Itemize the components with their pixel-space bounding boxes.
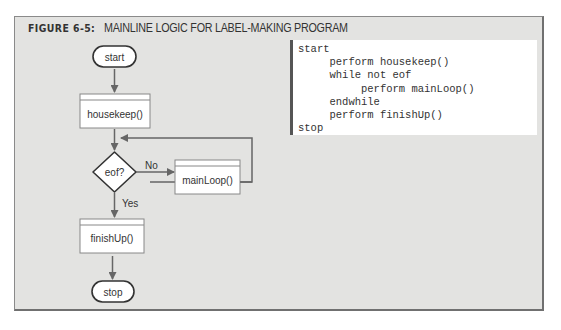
- start-terminator: start: [93, 46, 136, 67]
- code-line: perform housekeep(): [298, 56, 537, 69]
- code-line: while not eof: [298, 69, 537, 82]
- start-text: start: [105, 52, 125, 63]
- yes-label: Yes: [122, 198, 138, 209]
- finishup-module: finishUp(): [80, 219, 144, 253]
- housekeep-text: housekeep(): [87, 109, 143, 120]
- no-label: No: [145, 160, 158, 171]
- housekeep-module: housekeep(): [80, 94, 150, 128]
- decision-text: eof?: [105, 167, 125, 178]
- code-line: perform mainLoop(): [298, 83, 537, 96]
- stop-terminator: stop: [92, 281, 134, 302]
- code-line: perform finishUp(): [298, 109, 537, 122]
- pseudocode-box: start perform housekeep() while not eof …: [290, 40, 537, 135]
- finishup-text: finishUp(): [91, 233, 134, 244]
- code-line: start: [298, 43, 537, 56]
- eof-decision: eof?: [93, 152, 136, 192]
- stop-text: stop: [104, 287, 123, 298]
- mainloop-module: mainLoop(): [175, 160, 240, 194]
- code-line: endwhile: [298, 96, 537, 109]
- mainloop-text: mainLoop(): [182, 175, 233, 186]
- code-line: stop: [298, 122, 537, 135]
